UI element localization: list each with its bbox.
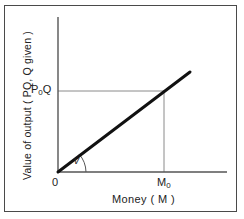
x-value-marker-m0: M0 — [157, 177, 171, 190]
plot-canvas — [0, 0, 244, 219]
angle-label-v: v — [74, 156, 79, 166]
y-value-marker-tail: Q — [43, 83, 52, 95]
y-axis-title: Value of output ( PQ, Q given ) — [22, 31, 33, 180]
x-axis-title: Money ( M ) — [112, 194, 175, 205]
y-value-marker-p0q: P0Q — [31, 84, 51, 97]
figure-container: Value of output ( PQ, Q given ) Money ( … — [0, 0, 244, 219]
x-value-marker-base: M — [157, 176, 166, 188]
x-value-marker-subscript: 0 — [166, 181, 170, 190]
origin-label: 0 — [52, 177, 58, 188]
